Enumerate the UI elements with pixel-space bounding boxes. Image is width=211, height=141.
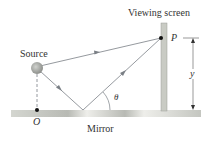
source-sphere [31,62,43,74]
distance-y-label: y [189,69,195,79]
mirror-label: Mirror [87,124,114,134]
angle-arc [103,92,110,110]
angle-theta-label: θ [114,93,118,102]
source-label: Source [20,49,48,59]
diagram-graphics [0,0,211,141]
y-arrow-down [191,105,195,110]
origin-point [35,108,39,112]
viewing-screen [161,23,167,111]
origin-label: O [33,117,40,127]
direct-ray [40,38,161,66]
y-arrow-up [191,38,195,43]
lloyds-mirror-diagram: Viewing screen Source P y θ O Mirror [0,0,211,141]
point-p-label: P [171,33,177,43]
viewing-screen-label: Viewing screen [128,8,190,18]
point-p-dot [159,36,163,40]
